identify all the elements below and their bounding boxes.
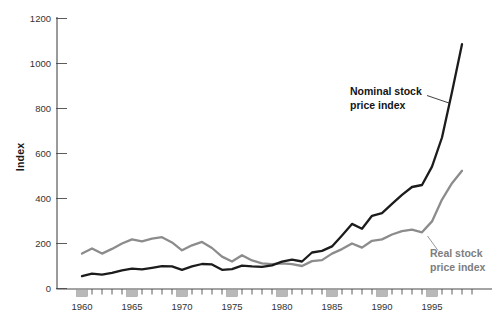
- nominal-annotation-leader-line: [427, 96, 449, 104]
- y-axis-tick-label: 0: [46, 283, 51, 294]
- x-axis-major-tick-box: [227, 290, 238, 297]
- x-axis-tick-label: 1965: [121, 301, 142, 312]
- x-axis-major-tick-box: [327, 290, 338, 297]
- nominal-series-annotation: Nominal stock price index: [350, 85, 422, 112]
- x-axis-major-tick-box: [377, 290, 388, 297]
- real-series-annotation-line1: Real stock: [430, 247, 485, 261]
- y-axis-title: Index: [13, 130, 27, 185]
- x-axis-major-tick-box: [177, 290, 188, 297]
- x-axis-tick-label: 1985: [321, 301, 342, 312]
- y-axis-tick-label: 1200: [30, 13, 51, 24]
- x-axis-tick-label: 1960: [71, 301, 92, 312]
- y-axis-tick-label: 1000: [30, 58, 51, 69]
- x-axis-tick-label: 1995: [421, 301, 442, 312]
- x-axis-tick-label: 1980: [271, 301, 292, 312]
- nominal-series-annotation-line2: price index: [350, 99, 422, 113]
- y-axis-tick-label: 600: [35, 148, 51, 159]
- x-axis-major-tick-box: [77, 290, 88, 297]
- x-axis-major-tick-box: [277, 290, 288, 297]
- y-axis-tick-label: 200: [35, 238, 51, 249]
- stock-price-index-chart: 0200400600800100012001960196519701975198…: [0, 0, 502, 325]
- real-series-annotation-line2: price index: [430, 261, 485, 275]
- nominal-series-annotation-line1: Nominal stock: [350, 85, 422, 99]
- real-series-annotation: Real stock price index: [430, 247, 485, 274]
- y-axis-tick-label: 400: [35, 193, 51, 204]
- axis-frame: [57, 17, 492, 289]
- x-axis-major-tick-box: [427, 290, 438, 297]
- chart-canvas: 0200400600800100012001960196519701975198…: [0, 0, 502, 325]
- y-axis-tick-label: 800: [35, 103, 51, 114]
- x-axis-major-tick-box: [127, 290, 138, 297]
- real-stock-price-index-line: [82, 171, 462, 266]
- x-axis-tick-label: 1990: [371, 301, 392, 312]
- x-axis-tick-label: 1970: [171, 301, 192, 312]
- x-axis-tick-label: 1975: [221, 301, 242, 312]
